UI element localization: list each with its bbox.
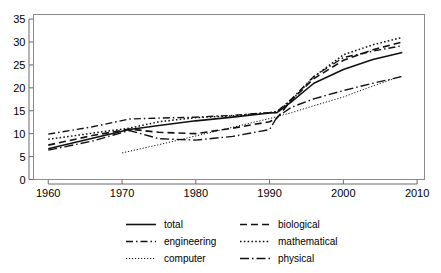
x-axis-tick-label: 2010 xyxy=(405,187,429,199)
x-axis-tick-label: 1990 xyxy=(257,187,281,199)
legend-label-total: total xyxy=(164,219,183,230)
x-axis-tick-label: 1960 xyxy=(36,187,60,199)
x-axis-tick-label: 1980 xyxy=(184,187,208,199)
y-axis-tick-label: 20 xyxy=(13,82,25,94)
legend-label-physical: physical xyxy=(278,253,314,264)
line-chart: 05101520253035 196019701980199020002010 … xyxy=(0,0,441,273)
chart-figure: 05101520253035 196019701980199020002010 … xyxy=(0,0,441,273)
y-axis-tick-label: 35 xyxy=(13,13,25,25)
chart-background xyxy=(0,0,441,273)
legend-label-computer: computer xyxy=(164,253,206,264)
legend-label-biological: biological xyxy=(278,219,320,230)
y-axis-tick-label: 30 xyxy=(13,36,25,48)
y-axis-tick-label: 5 xyxy=(19,151,25,163)
legend-label-engineering: engineering xyxy=(164,236,216,247)
x-axis-tick-label: 1970 xyxy=(110,187,134,199)
y-axis-tick-label: 25 xyxy=(13,59,25,71)
y-axis-tick-label: 10 xyxy=(13,128,25,140)
legend-label-mathematical: mathematical xyxy=(278,236,337,247)
y-axis-tick-label: 0 xyxy=(19,174,25,186)
y-axis-tick-label: 15 xyxy=(13,105,25,117)
x-axis-tick-label: 2000 xyxy=(331,187,355,199)
